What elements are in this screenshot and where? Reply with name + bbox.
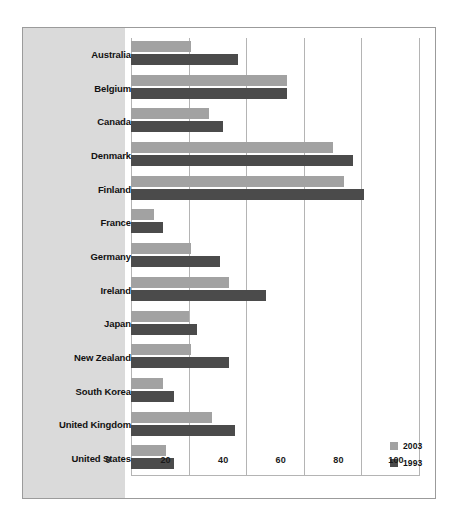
bar-belgium-2003: [131, 75, 287, 86]
legend-swatch-2003: [390, 442, 398, 450]
category-label-france: France: [31, 217, 131, 228]
category-label-ireland: Ireland: [31, 285, 131, 296]
category-row: France: [131, 206, 419, 240]
category-row: Finland: [131, 173, 419, 207]
bar-united-kingdom-2003: [131, 412, 212, 423]
bar-germany-1993: [131, 256, 220, 267]
bar-canada-1993: [131, 121, 223, 132]
gridline-100: [419, 38, 420, 476]
plot-area: AustraliaBelgiumCanadaDenmarkFinlandFran…: [131, 38, 419, 476]
category-row: Canada: [131, 105, 419, 139]
x-axis-tick-labels: 020406080100: [108, 455, 396, 471]
category-label-new-zealand: New Zealand: [31, 352, 131, 363]
bar-denmark-2003: [131, 142, 333, 153]
bar-new-zealand-1993: [131, 357, 229, 368]
bar-japan-1993: [131, 324, 197, 335]
category-row: Belgium: [131, 72, 419, 106]
category-label-united-kingdom: United Kingdom: [31, 419, 131, 430]
bar-united-kingdom-1993: [131, 425, 235, 436]
bar-finland-2003: [131, 176, 344, 187]
category-label-canada: Canada: [31, 116, 131, 127]
category-label-germany: Germany: [31, 251, 131, 262]
x-tick-label-0: 0: [105, 455, 110, 465]
bar-france-2003: [131, 209, 154, 220]
bar-germany-2003: [131, 243, 191, 254]
bar-finland-1993: [131, 189, 364, 200]
x-tick-label-80: 80: [333, 455, 343, 465]
bar-japan-2003: [131, 311, 189, 322]
bar-new-zealand-2003: [131, 344, 191, 355]
category-label-australia: Australia: [31, 49, 131, 60]
bar-australia-1993: [131, 54, 238, 65]
chart-screenshot: AustraliaBelgiumCanadaDenmarkFinlandFran…: [0, 0, 463, 527]
category-row: Denmark: [131, 139, 419, 173]
category-row: United Kingdom: [131, 409, 419, 443]
category-label-finland: Finland: [31, 184, 131, 195]
category-row: Ireland: [131, 274, 419, 308]
category-row: New Zealand: [131, 341, 419, 375]
category-label-denmark: Denmark: [31, 150, 131, 161]
bar-australia-2003: [131, 41, 191, 52]
x-tick-label-60: 60: [276, 455, 286, 465]
bar-denmark-1993: [131, 155, 353, 166]
bar-belgium-1993: [131, 88, 287, 99]
category-row: Australia: [131, 38, 419, 72]
category-label-south-korea: South Korea: [31, 386, 131, 397]
legend-entry-2003: 2003: [390, 439, 450, 452]
category-label-belgium: Belgium: [31, 83, 131, 94]
category-row: South Korea: [131, 375, 419, 409]
x-tick-label-40: 40: [218, 455, 228, 465]
bar-ireland-1993: [131, 290, 266, 301]
x-tick-label-100: 100: [388, 455, 404, 465]
bar-canada-2003: [131, 108, 209, 119]
x-tick-label-20: 20: [160, 455, 170, 465]
bar-south-korea-2003: [131, 378, 163, 389]
bar-ireland-2003: [131, 277, 229, 288]
bar-france-1993: [131, 222, 163, 233]
category-label-japan: Japan: [31, 318, 131, 329]
category-row: Germany: [131, 240, 419, 274]
legend-label-2003: 2003: [403, 441, 422, 451]
chart-frame: AustraliaBelgiumCanadaDenmarkFinlandFran…: [22, 27, 436, 499]
bar-south-korea-1993: [131, 391, 174, 402]
category-row: Japan: [131, 308, 419, 342]
legend-label-1993: 1993: [403, 458, 422, 468]
